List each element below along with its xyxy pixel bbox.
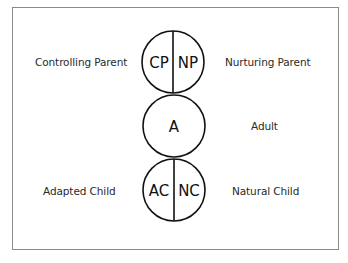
parent-right-abbrev: NP — [178, 54, 198, 72]
adult-node: A — [143, 95, 205, 157]
child-right-abbrev: NC — [178, 182, 200, 200]
controlling-parent-label: Controlling Parent — [35, 56, 127, 68]
parent-left-abbrev: CP — [149, 54, 169, 72]
child-left-abbrev: AC — [149, 182, 169, 200]
adult-abbrev: A — [169, 118, 180, 136]
ego-state-diagram: CP NP A AC NC — [0, 0, 348, 263]
nurturing-parent-label: Nurturing Parent — [225, 56, 311, 68]
adult-label: Adult — [251, 120, 278, 132]
adapted-child-label: Adapted Child — [43, 185, 116, 197]
child-node: AC NC — [143, 159, 205, 221]
parent-node: CP NP — [142, 31, 204, 93]
natural-child-label: Natural Child — [232, 185, 299, 197]
